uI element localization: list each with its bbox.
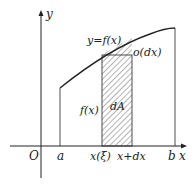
- y-axis-arrow-icon: [39, 10, 44, 16]
- height-label: f(x): [79, 104, 99, 117]
- strip-right-label: x+dx: [117, 150, 146, 163]
- error-label: o(dx): [133, 46, 161, 59]
- bound-b-label: b: [168, 149, 176, 163]
- y-axis-label: y: [45, 7, 53, 21]
- bound-a-label: a: [57, 149, 64, 163]
- x-axis-arrow-icon: [181, 144, 187, 149]
- area-label: dA: [110, 100, 125, 113]
- integral-area-diagram: y x O y=f(x) a b x(ξ) x+dx f(x) dA o(dx): [0, 0, 195, 188]
- curve-label: y=f(x): [86, 34, 121, 47]
- origin-label: O: [29, 149, 39, 163]
- strip-left-label: x(ξ): [90, 150, 111, 163]
- x-axis-label: x: [179, 149, 186, 163]
